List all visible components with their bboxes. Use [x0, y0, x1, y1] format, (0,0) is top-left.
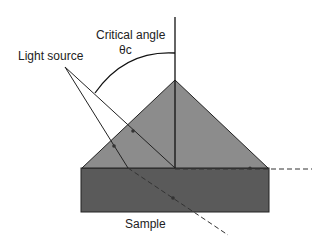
ray-arrow-1	[131, 129, 135, 133]
critical-angle-arc	[95, 53, 175, 93]
critical-angle-label: Critical angle	[96, 28, 165, 42]
ray-arrow-2	[112, 144, 116, 148]
incident-ray-refracted	[65, 67, 128, 168]
ray-arrow-4	[248, 166, 251, 169]
ray-arrow-3	[171, 196, 175, 200]
diagram-canvas: Critical angle θc Light source Sample	[0, 0, 326, 247]
sample-label: Sample	[125, 217, 166, 231]
sample-block	[81, 168, 269, 212]
theta-label: θc	[119, 43, 132, 57]
light-source-label: Light source	[18, 49, 83, 63]
